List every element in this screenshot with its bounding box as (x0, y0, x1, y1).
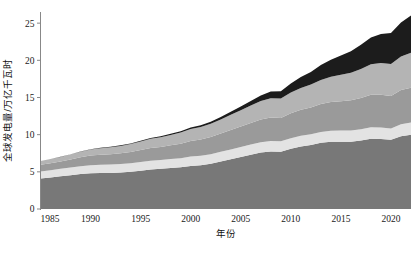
y-tick-label: 15 (25, 93, 35, 103)
stacked-area-chart-figure: 0510152025 19851990199520002005201020152… (0, 0, 412, 263)
x-axis-title: 年份 (216, 228, 236, 239)
y-tick-label: 0 (30, 204, 35, 214)
y-tick-label: 20 (25, 56, 35, 66)
y-tick-label: 10 (25, 130, 35, 140)
x-tick-label: 1990 (81, 214, 100, 224)
x-tick-label: 2000 (181, 214, 200, 224)
y-tick-label: 5 (30, 167, 35, 177)
x-tick-label: 2015 (331, 214, 350, 224)
y-axis-ticks: 0510152025 (25, 19, 41, 215)
chart-svg: 0510152025 19851990199520002005201020152… (0, 0, 412, 263)
x-tick-label: 1995 (131, 214, 150, 224)
x-axis-ticks: 19851990199520002005201020152020 (41, 214, 401, 224)
area-bands-group (41, 16, 412, 209)
y-axis-title: 全球发电量/万亿千瓦时 (2, 59, 13, 162)
x-tick-label: 2005 (231, 214, 250, 224)
x-tick-label: 2020 (381, 214, 400, 224)
y-tick-label: 25 (25, 19, 35, 29)
x-tick-label: 2010 (281, 214, 300, 224)
plot-container: 0510152025 19851990199520002005201020152… (0, 0, 412, 263)
x-tick-label: 1985 (41, 214, 60, 224)
